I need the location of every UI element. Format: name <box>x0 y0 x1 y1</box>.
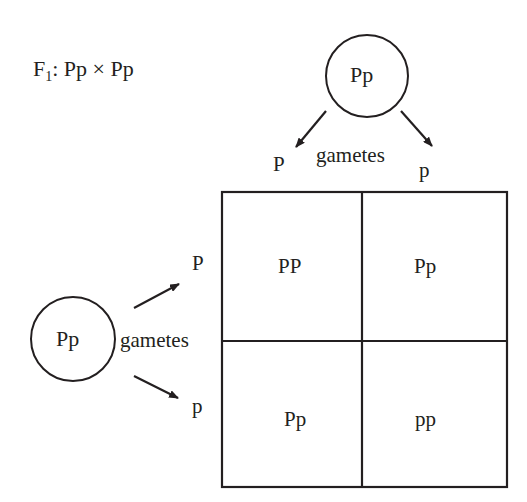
punnett-cell-r1c1: PP <box>278 256 301 277</box>
left-gametes-label: gametes <box>120 330 189 351</box>
punnett-cell-r1c2: Pp <box>414 256 436 277</box>
punnett-cell-r2c1: Pp <box>284 409 306 430</box>
top-gamete-2: p <box>419 160 430 181</box>
cross-title: F1: Pp × Pp <box>33 58 134 84</box>
arrow-top-left <box>296 111 326 147</box>
top-gamete-1: P <box>273 154 285 175</box>
top-gametes-label: gametes <box>316 145 385 166</box>
top-parent-genotype: Pp <box>350 64 373 86</box>
arrow-left-down <box>134 376 178 398</box>
left-gamete-2: p <box>192 396 203 417</box>
arrow-left-up <box>134 284 179 308</box>
left-gamete-1: P <box>192 253 204 274</box>
punnett-cell-r2c2: pp <box>415 409 436 430</box>
arrow-top-right <box>401 111 432 146</box>
punnett-square-border <box>222 192 507 487</box>
left-parent-genotype: Pp <box>56 328 79 350</box>
